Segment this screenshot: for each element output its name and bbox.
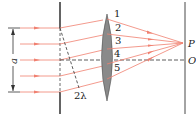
converging-arrowheads (147, 31, 154, 62)
point-o-label: O (188, 55, 196, 66)
convex-lens (102, 14, 113, 101)
diffraction-diagram: a 2λ (0, 0, 196, 116)
path-difference-line (60, 28, 79, 88)
slit-width-dimension: a (8, 28, 20, 92)
arrow-down-icon (11, 85, 15, 91)
ray-label-5: 5 (114, 62, 120, 73)
slit-width-label: a (8, 58, 19, 64)
path-difference-label: 2λ (74, 90, 87, 101)
ray-label-3: 3 (115, 35, 121, 46)
diffracted-rays (60, 20, 103, 92)
ray-label-4: 4 (114, 48, 120, 59)
ray-label-2: 2 (115, 22, 121, 33)
ray-label-1: 1 (114, 8, 120, 19)
point-p-label: P (187, 38, 195, 49)
incident-arrowheads (34, 27, 40, 94)
arrow-up-icon (11, 29, 15, 35)
